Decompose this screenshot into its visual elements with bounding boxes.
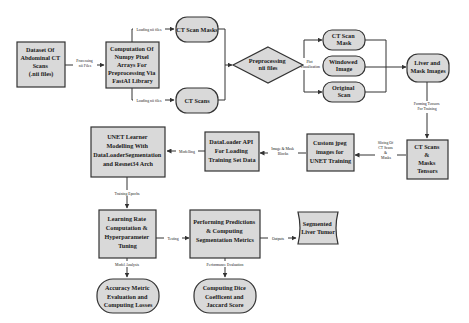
label-loading-nii-bottom: Loading nii files	[136, 99, 162, 103]
label-testing: Testing	[167, 237, 178, 241]
edge-mask-merge	[364, 40, 386, 67]
label-outputs: Outputs	[272, 237, 285, 241]
node-learning-rate: Learning Rate Computation & Hyperparamet…	[99, 210, 156, 258]
svg-text:Computing Dice Coefficen: Computing Dice Coefficent and Jaccard Sc…	[203, 284, 248, 308]
node-preprocessing: Preprocessing nii files	[233, 47, 303, 83]
svg-text:DataLoader API For Loadi: DataLoader API For Loading Training Set …	[209, 138, 256, 163]
svg-text:Segmented Liver Tumor: Segmented Liver Tumor	[301, 220, 335, 235]
svg-text:CT Scans: CT Scans	[184, 97, 210, 104]
label-modelling: Modelling	[179, 150, 195, 154]
node-dataset: Dataset Of Abdominal CT Scans (.nii file…	[17, 42, 65, 87]
node-liver-mask-images: Liver and Mask Images	[407, 54, 449, 82]
label-processing-nii: Processing nii Files	[76, 59, 93, 68]
node-accuracy-metric: Accuracy Metric Evaluation and Computing…	[97, 279, 159, 313]
node-original-scan: Original Scan	[323, 82, 365, 102]
node-windowed-image: Windowed Image	[323, 56, 365, 76]
label-loading-nii-top: Loading nii files	[136, 28, 162, 32]
node-predictions: Performing Predictions & Computing Segme…	[190, 210, 260, 258]
node-ct-scans: CT Scans	[176, 88, 218, 113]
edge-scans-merge	[218, 65, 225, 100]
node-computation: Computation Of Numpy Pixel Arrays For Pr…	[106, 42, 159, 88]
node-custom-jpeg: Custom jpeg images for UNET Training	[307, 134, 354, 171]
svg-text:CT Scan Masks: CT Scan Masks	[176, 26, 218, 33]
node-ct-scan-masks: CT Scan Masks	[176, 17, 218, 42]
svg-text:Liver and Mask Images: Liver and Mask Images	[410, 59, 446, 74]
svg-text:Accuracy Metric Evaluati: Accuracy Metric Evaluation and Computing…	[104, 284, 153, 308]
label-performance-evaluation: Performance Evaluation	[207, 263, 244, 267]
node-ct-masks-tensors: CT Scans & Masks Tensors	[407, 140, 448, 179]
label-forming-tensors: Forming Tensors For Training	[414, 102, 441, 111]
node-segmented-tumor: Segmented Liver Tumor	[298, 212, 338, 244]
node-ct-scan-mask: CT Scan Mask	[323, 30, 365, 50]
node-unet-learner: UNET Learner Modelling With DataLoaderSe…	[91, 127, 165, 177]
flowchart-canvas: Processing nii Files Loading nii files L…	[0, 0, 469, 323]
node-dataloader-api: DataLoader API For Loading Training Set …	[205, 132, 259, 171]
node-dice-jaccard: Computing Dice Coefficent and Jaccard Sc…	[194, 279, 256, 313]
label-model-analysis: Model Analysis	[115, 263, 139, 267]
edge-original-merge	[364, 67, 386, 92]
edge-masks-merge	[218, 29, 225, 65]
svg-text:CT Scans & Masks: CT Scans & Masks Tensors	[414, 143, 441, 174]
label-training-epochs: Training Epochs	[114, 192, 140, 196]
